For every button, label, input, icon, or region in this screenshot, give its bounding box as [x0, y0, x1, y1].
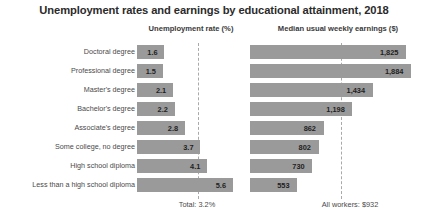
- earnings-bar-cell: 1,198: [250, 102, 426, 116]
- earnings-value-label: 1,884: [385, 67, 404, 76]
- chart-row: High school diploma4.1730: [0, 157, 428, 176]
- unemployment-bar-cell: 2.2: [137, 102, 243, 116]
- category-label: Professional degree: [71, 66, 135, 75]
- unemployment-bar-cell: 1.5: [137, 64, 243, 78]
- column-header-unemployment: Unemployment rate (%): [131, 24, 251, 33]
- chart-container: Unemployment rates and earnings by educa…: [0, 0, 428, 220]
- unemployment-bar-cell: 2.1: [137, 83, 243, 97]
- unemployment-value-label: 2.2: [158, 105, 168, 114]
- earnings-bar-cell: 730: [250, 159, 426, 173]
- unemployment-value-label: 3.7: [183, 143, 193, 152]
- chart-title: Unemployment rates and earnings by educa…: [0, 4, 428, 16]
- category-label: Master's degree: [84, 85, 135, 94]
- earnings-value-label: 1,825: [380, 48, 399, 57]
- unemployment-value-label: 2.1: [156, 86, 166, 95]
- unemployment-bar-cell: 1.6: [137, 45, 243, 59]
- chart-row: Less than a high school diploma5.6553: [0, 176, 428, 195]
- earnings-value-label: 802: [299, 143, 311, 152]
- unemployment-bar-cell: 4.1: [137, 159, 243, 173]
- chart-row: Associate's degree2.8862: [0, 119, 428, 138]
- category-label: Associate's degree: [74, 123, 135, 132]
- unemployment-bar-cell: 3.7: [137, 140, 243, 154]
- unemployment-value-label: 2.8: [168, 124, 178, 133]
- unemployment-value-label: 1.5: [146, 67, 156, 76]
- unemployment-value-label: 1.6: [147, 48, 157, 57]
- chart-row: Doctoral degree1.61,825: [0, 43, 428, 62]
- earnings-value-label: 1,434: [347, 86, 366, 95]
- earnings-bar-cell: 1,884: [250, 64, 426, 78]
- earnings-value-label: 553: [277, 181, 289, 190]
- chart-row: Some college, no degree3.7802: [0, 138, 428, 157]
- column-header-earnings: Median usual weekly earnings ($): [248, 24, 428, 33]
- category-label: Bachelor's degree: [77, 104, 135, 113]
- earnings-bar-cell: 1,434: [250, 83, 426, 97]
- chart-row: Professional degree1.51,884: [0, 62, 428, 81]
- earnings-bar-cell: 802: [250, 140, 426, 154]
- chart-row: Bachelor's degree2.21,198: [0, 100, 428, 119]
- category-label: High school diploma: [70, 161, 135, 170]
- earnings-value-label: 862: [304, 124, 316, 133]
- unemployment-value-label: 4.1: [190, 162, 200, 171]
- chart-row: Master's degree2.11,434: [0, 81, 428, 100]
- earnings-bar: [250, 178, 297, 192]
- unemployment-bar: [137, 102, 175, 116]
- unemployment-bar-cell: 5.6: [137, 178, 243, 192]
- earnings-bar-cell: 553: [250, 178, 426, 192]
- footer-total-earnings: All workers: $932: [280, 200, 420, 209]
- category-label: Less than a high school diploma: [32, 180, 135, 189]
- earnings-value-label: 730: [292, 162, 304, 171]
- category-label: Some college, no degree: [55, 142, 135, 151]
- unemployment-bar-cell: 2.8: [137, 121, 243, 135]
- earnings-value-label: 1,198: [326, 105, 345, 114]
- unemployment-value-label: 5.6: [216, 181, 226, 190]
- chart-rows: Doctoral degree1.61,825Professional degr…: [0, 43, 428, 195]
- earnings-bar-cell: 1,825: [250, 45, 426, 59]
- category-label: Doctoral degree: [84, 47, 135, 56]
- earnings-bar-cell: 862: [250, 121, 426, 135]
- footer-total-unemployment: Total: 3.2%: [137, 200, 257, 209]
